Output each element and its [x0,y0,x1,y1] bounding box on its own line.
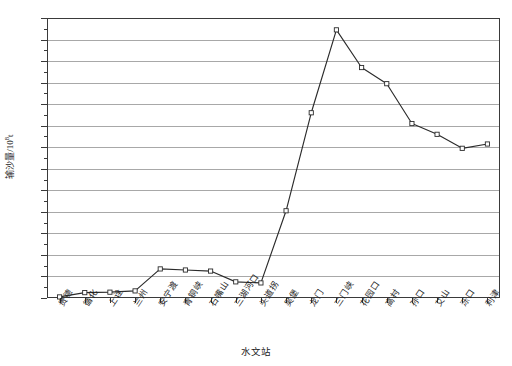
gridline [48,61,499,62]
y-tick-mark [41,83,47,84]
y-tick-minor [44,180,47,181]
y-tick-minor [44,93,47,94]
gridline [48,169,499,170]
gridline [48,83,499,84]
gridline [48,255,499,256]
y-tick-minor [44,223,47,224]
y-tick-mark [41,61,47,62]
y-tick-minor [44,158,47,159]
y-tick-minor [44,29,47,30]
y-tick-mark [41,233,47,234]
y-tick-minor [44,72,47,73]
y-tick-minor [44,50,47,51]
gridline [48,147,499,148]
y-tick-mark [41,255,47,256]
sediment-discharge-line-chart: 012345678910111213 输沙量/108t 贵德循化上诠兰州安宁渡青… [0,0,512,366]
y-tick-mark [41,18,47,19]
y-tick-mark [41,126,47,127]
y-tick-minor [44,266,47,267]
y-tick-mark [41,276,47,277]
y-tick-mark [41,212,47,213]
gridline [48,126,499,127]
y-tick-mark [41,190,47,191]
y-tick-minor [44,287,47,288]
y-tick-minor [44,244,47,245]
y-tick-mark [41,40,47,41]
x-axis-title: 水文站 [0,344,512,358]
y-tick-minor [44,201,47,202]
y-tick-mark [41,169,47,170]
y-tick-mark [41,104,47,105]
y-tick-minor [44,136,47,137]
y-tick-mark [41,147,47,148]
y-tick-minor [44,115,47,116]
y-axis-title: 输沙量/108t [3,121,16,193]
gridline [48,212,499,213]
gridline [48,276,499,277]
y-tick-mark [41,298,47,299]
gridline [48,104,499,105]
gridline [48,40,499,41]
gridline [48,190,499,191]
plot-area [47,18,500,298]
gridline [48,233,499,234]
